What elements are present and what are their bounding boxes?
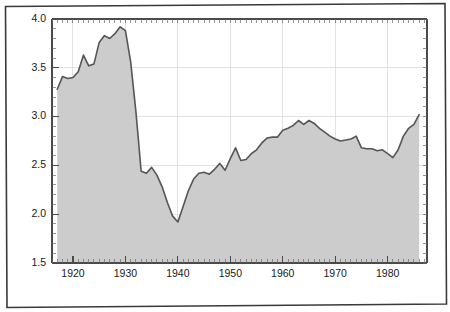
x-axis-tick-label: 1930 xyxy=(114,267,138,279)
y-axis-tick-label: 2.0 xyxy=(31,207,46,219)
y-axis-tick-label: 4.0 xyxy=(31,12,46,24)
y-axis-tick-label: 3.5 xyxy=(31,61,46,73)
x-axis-tick-label: 1920 xyxy=(61,267,85,279)
chart-figure: 1.52.02.53.03.54.01920193019401950196019… xyxy=(0,0,450,312)
x-axis-tick-label: 1980 xyxy=(376,267,400,279)
x-axis-tick-label: 1960 xyxy=(271,267,295,279)
x-axis-tick-label: 1970 xyxy=(324,267,348,279)
y-axis-tick-label: 1.5 xyxy=(31,256,46,268)
y-axis-tick-label: 3.0 xyxy=(31,109,46,121)
x-axis-tick-label: 1940 xyxy=(166,267,190,279)
plot-area: 1.52.02.53.03.54.01920193019401950196019… xyxy=(31,12,427,279)
x-axis-tick-label: 1950 xyxy=(219,267,243,279)
y-axis-tick-label: 2.5 xyxy=(31,158,46,170)
